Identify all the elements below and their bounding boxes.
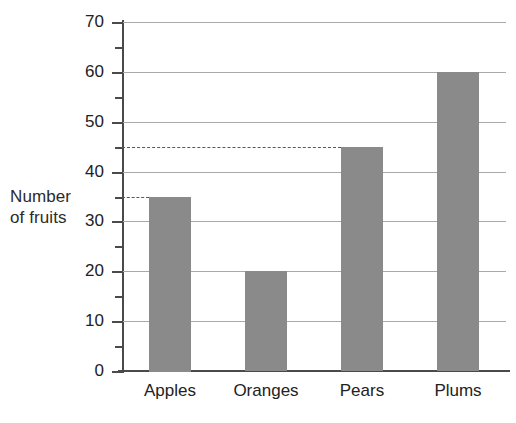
y-tick-label-50: 50	[66, 113, 104, 130]
bar-pears	[341, 147, 383, 371]
x-tick-label-plums: Plums	[410, 381, 506, 401]
x-tick-label-pears: Pears	[314, 381, 410, 401]
y-tick-label-20: 20	[66, 262, 104, 279]
reference-line-45	[122, 147, 341, 148]
y-tick-label-40: 40	[66, 163, 104, 180]
y-tick-label-70: 70	[66, 13, 104, 30]
y-tick-major-0	[112, 371, 123, 373]
y-tick-label-60: 60	[66, 63, 104, 80]
x-tick-label-apples: Apples	[122, 381, 218, 401]
bar-oranges	[245, 271, 287, 371]
y-tick-label-30: 30	[66, 212, 104, 229]
x-tick-label-oranges: Oranges	[218, 381, 314, 401]
y-tick-label-0: 0	[66, 362, 104, 379]
bar-chart: Number of fruits 010203040506070 ApplesO…	[0, 0, 516, 423]
bar-apples	[149, 197, 191, 372]
reference-line-35	[122, 197, 149, 198]
bar-plums	[437, 72, 479, 371]
y-tick-label-10: 10	[66, 312, 104, 329]
plot-area	[122, 22, 506, 371]
